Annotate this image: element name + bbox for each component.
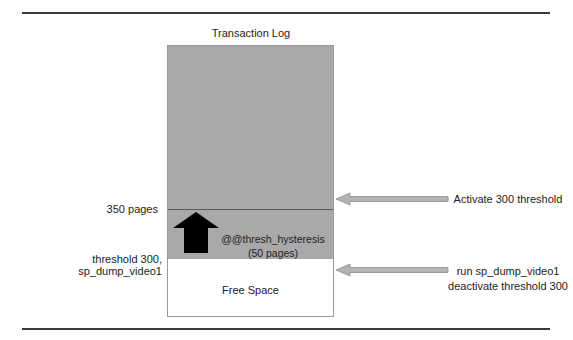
label-run-deactivate: run sp_dump_video1 deactivate threshold …	[440, 264, 573, 294]
left-arrow-icon	[336, 193, 448, 205]
label-threshold-300: threshold 300, sp_dump_video1	[10, 253, 162, 277]
up-arrow-icon	[173, 212, 219, 253]
label-run-line1: run sp_dump_video1	[440, 264, 573, 279]
label-activate-threshold: Activate 300 threshold	[452, 192, 564, 207]
left-arrow-icon	[336, 264, 448, 276]
label-350-pages: 350 pages	[60, 203, 158, 215]
label-run-line2: deactivate threshold 300	[440, 279, 573, 294]
